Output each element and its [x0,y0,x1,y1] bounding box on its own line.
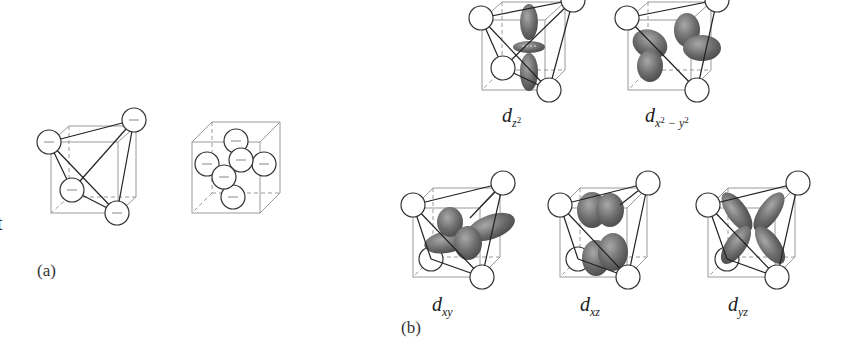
orbital-dz2 [469,0,585,102]
figure-canvas [0,0,846,364]
label-dxz: dxz [580,293,600,320]
orbital-dxy [401,171,519,289]
label-dz2: dz2 [502,104,521,131]
orbital-dyz [696,171,810,289]
edge-text: t [0,212,3,235]
panel-b-label: (b) [401,318,421,338]
label-dyz: dyz [728,293,748,320]
tetrahedral-cube [37,108,146,225]
label-dx2-y2: dx2 − y2 [645,104,689,131]
label-dxy: dxy [432,293,453,320]
octahedral-cube [192,122,280,213]
orbital-dx2-y2 [615,0,729,102]
orbital-dxz [548,171,660,289]
panel-a-label: (a) [37,261,56,281]
